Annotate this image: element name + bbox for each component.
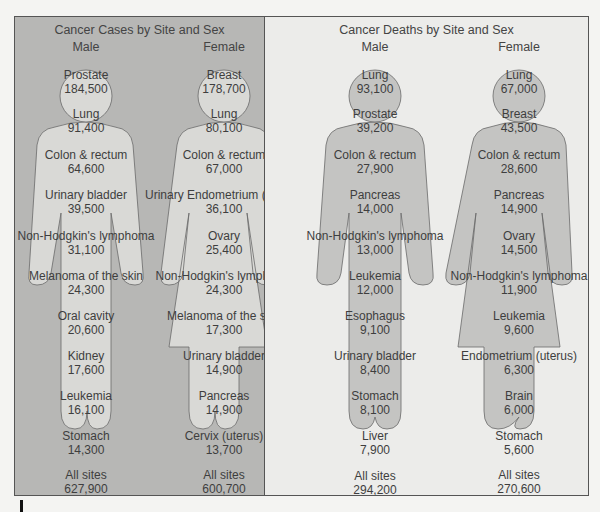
deaths-male-entry-8: Urinary bladder8,400 [295,349,455,377]
cases-female-heading: Female [164,40,265,54]
deaths-female-entry-10: Stomach5,600 [439,429,588,457]
cases-female-entry-4: Urinary Endometrium (uterus)36,100 [144,188,265,216]
deaths-male-entry-1: Lung93,100 [295,68,455,96]
cancer-deaths-panel: Cancer Deaths by Site and Sex Male Femal… [265,17,588,495]
cases-female-entry-6: Non-Hodgkin's lymphoma24,300 [144,269,265,297]
deaths-chart-title: Cancer Deaths by Site and Sex [265,23,588,37]
cases-female-entry-1: Breast178,700 [144,68,265,96]
deaths-female-entry-5: Ovary14,500 [439,229,588,257]
deaths-female-entry-4: Pancreas14,900 [439,188,588,216]
deaths-male-entry-2: Prostate39,200 [295,107,455,135]
cases-female-entry-10: Cervix (uterus)13,700 [144,429,265,457]
deaths-male-entry-4: Pancreas14,000 [295,188,455,216]
deaths-male-entry-9: Stomach8,100 [295,389,455,417]
deaths-male-entry-3: Colon & rectum27,900 [295,148,455,176]
deaths-male-total: All sites294,200 [295,469,455,495]
cases-female-entry-2: Lung80,100 [144,107,265,135]
cases-female-total: All sites600,700 [144,468,265,495]
cases-female-entry-5: Ovary25,400 [144,229,265,257]
cancer-cases-panel: Cancer Cases by Site and Sex Male Female… [15,17,265,495]
deaths-male-heading: Male [315,40,435,54]
page-margin-mark [20,500,23,512]
deaths-female-entry-7: Leukemia9,600 [439,309,588,337]
deaths-male-entry-10: Liver7,900 [295,429,455,457]
deaths-female-entry-8: Endometrium (uterus)6,300 [439,349,588,377]
deaths-male-entry-5: Non-Hodgkin's lymphoma13,000 [295,229,455,257]
deaths-female-total: All sites270,600 [439,468,588,495]
deaths-female-heading: Female [459,40,579,54]
cases-male-heading: Male [26,40,146,54]
deaths-male-entry-6: Leukemia12,000 [295,269,455,297]
cases-female-entry-3: Colon & rectum67,000 [144,148,265,176]
deaths-female-entry-3: Colon & rectum28,600 [439,148,588,176]
cases-female-entry-8: Urinary bladder14,900 [144,349,265,377]
cases-chart-title: Cancer Cases by Site and Sex [15,23,264,37]
cases-female-entry-7: Melanoma of the skin17,300 [144,309,265,337]
deaths-female-entry-9: Brain6,000 [439,389,588,417]
deaths-male-entry-7: Esophagus9,100 [295,309,455,337]
cases-female-entry-9: Pancreas14,900 [144,389,265,417]
deaths-female-entry-6: Non-Hodgkin's lymphoma11,900 [439,269,588,297]
deaths-female-entry-1: Lung67,000 [439,68,588,96]
deaths-female-entry-2: Breast43,500 [439,107,588,135]
figure-frame: Cancer Cases by Site and Sex Male Female… [14,16,589,496]
